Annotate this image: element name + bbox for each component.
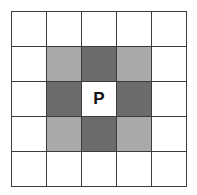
grid-cell-light [47,47,82,82]
grid-cell-empty [12,82,47,117]
grid-cell-empty [152,12,187,47]
grid-cell-dark [82,117,117,152]
grid-cell-dark [47,82,82,117]
grid-cell-empty [152,152,187,187]
grid-cell-empty [12,47,47,82]
grid-cell-empty [117,152,152,187]
grid-cell-empty [152,117,187,152]
grid-cell-empty [12,117,47,152]
grid-cell-light [117,117,152,152]
grid-cell-dark [82,47,117,82]
grid-cell-light [117,47,152,82]
grid-cell-dark [117,82,152,117]
grid-cell-light [47,117,82,152]
grid-cell-empty [12,152,47,187]
center-pixel-cell: P [82,82,117,117]
grid-cell-empty [117,12,152,47]
center-pixel-label: P [93,89,104,109]
grid-cell-empty [47,152,82,187]
grid-cell-empty [12,12,47,47]
grid-cell-empty [152,82,187,117]
grid-cell-empty [152,47,187,82]
pixel-neighborhood-grid: P [11,11,187,187]
grid-cell-empty [82,12,117,47]
grid-cell-empty [82,152,117,187]
grid-cell-empty [47,12,82,47]
